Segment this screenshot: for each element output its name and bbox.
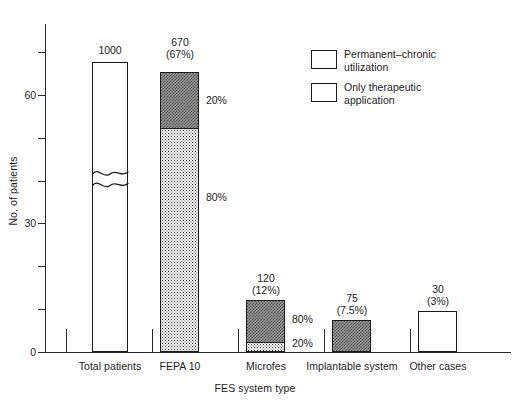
legend: Permanent–chronic utilization Only thera… (311, 48, 501, 114)
x-tick-4 (324, 329, 325, 353)
y-tick-40 (38, 181, 46, 182)
x-category-label-fepa-10: FEPA 10 (132, 360, 228, 373)
bar-value-other-cases: 30 (400, 283, 476, 295)
x-tick-3 (238, 329, 239, 353)
x-tick-1 (66, 329, 67, 353)
bar-share-microfes-permanent: 80% (292, 314, 313, 325)
bar-segment-plain (92, 62, 128, 352)
y-tick-20 (38, 266, 46, 267)
bar-value-microfes: 120 (228, 272, 304, 284)
y-tick-60 (38, 95, 46, 96)
y-tick-label-0: 0 (10, 347, 36, 357)
x-axis-title: FES system type (130, 382, 380, 394)
bar-implantable-system (332, 320, 371, 352)
bar-microfes (246, 300, 285, 352)
bar-segment-permanent-chronic (246, 300, 285, 342)
legend-item-permanent-chronic: Permanent–chronic utilization (311, 48, 501, 81)
legend-label-line1: Only therapeutic (344, 81, 421, 94)
bar-percent-implantable-system: (7.5%) (314, 304, 390, 316)
bar-segment-permanent-chronic (332, 320, 371, 352)
bar-percent-microfes: (12%) (228, 284, 304, 296)
legend-label-line2: application (344, 94, 421, 107)
legend-label-permanent-chronic: Permanent–chronic utilization (344, 48, 436, 73)
x-category-label-other-cases: Other cases (390, 360, 486, 373)
bar-segment-plain (418, 311, 457, 352)
bar-value-total-patients: 1000 (73, 44, 147, 56)
bar-segment-only-therapeutic (246, 342, 285, 352)
bar-share-fepa-10-therapeutic: 80% (206, 192, 227, 203)
legend-label-line1: Permanent–chronic (344, 48, 436, 61)
bar-fepa-10 (160, 72, 199, 352)
x-category-label-microfes: Microfes (218, 360, 314, 373)
y-tick-30 (38, 223, 46, 224)
legend-label-line2: utilization (344, 61, 436, 74)
bar-chart: 0 30 60 No. of patients FES system type … (0, 0, 519, 404)
y-axis-line (45, 24, 46, 353)
y-tick-10 (38, 309, 46, 310)
y-tick-70 (38, 52, 46, 53)
y-tick-label-60: 60 (10, 90, 36, 100)
bar-segment-only-therapeutic (160, 128, 199, 352)
legend-label-only-therapeutic: Only therapeutic application (344, 81, 421, 106)
y-tick-50 (38, 138, 46, 139)
y-axis-title: No. of patients (7, 131, 19, 251)
bar-percent-fepa-10: (67%) (142, 48, 218, 60)
axis-break-symbol (91, 165, 130, 193)
bar-share-fepa-10-permanent: 20% (206, 95, 227, 106)
x-tick-2 (152, 329, 153, 353)
bar-value-fepa-10: 670 (142, 36, 218, 48)
x-tick-5 (410, 329, 411, 353)
legend-swatch-permanent-chronic (311, 50, 337, 69)
bar-other-cases (418, 311, 457, 352)
bar-percent-other-cases: (3%) (400, 295, 476, 307)
x-category-label-implantable-system: Implantable system (304, 360, 400, 373)
bar-share-microfes-therapeutic: 20% (292, 338, 313, 349)
legend-item-only-therapeutic: Only therapeutic application (311, 81, 501, 114)
bar-value-implantable-system: 75 (314, 292, 390, 304)
bar-total-patients (92, 62, 128, 352)
x-axis-line (45, 352, 511, 353)
legend-swatch-only-therapeutic (311, 83, 337, 102)
bar-segment-permanent-chronic (160, 72, 199, 128)
y-tick-0 (38, 352, 46, 353)
